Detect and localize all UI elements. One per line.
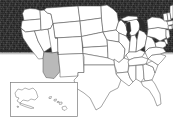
state-colorado[interactable]	[55, 37, 83, 55]
inset-hawaii-maui[interactable]	[59, 102, 62, 105]
inset-hawaii-kauai[interactable]	[49, 97, 52, 99]
state-washington[interactable]	[23, 9, 41, 21]
us-state-map: United States Alaska and Hawaii inset	[0, 0, 173, 119]
state-florida[interactable]	[141, 80, 161, 106]
state-maine[interactable]	[170, 5, 173, 19]
map-svg	[0, 0, 173, 119]
state-maryland[interactable]	[155, 41, 166, 48]
state-indiana[interactable]	[129, 35, 137, 52]
state-arkansas[interactable]	[114, 58, 129, 73]
state-massachusetts[interactable]	[167, 21, 173, 26]
state-arizona[interactable]	[43, 52, 60, 79]
state-rhode-island[interactable]	[172, 25, 173, 29]
inset-hawaii-oahu[interactable]	[54, 99, 57, 101]
state-oregon[interactable]	[21, 19, 41, 32]
state-minnesota[interactable]	[101, 5, 119, 32]
state-alabama[interactable]	[136, 65, 144, 82]
state-new-jersey[interactable]	[166, 30, 170, 40]
state-wyoming[interactable]	[53, 21, 82, 38]
